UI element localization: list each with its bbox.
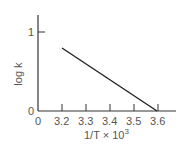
x-tick-label-3.5: 3.5 bbox=[126, 115, 141, 127]
y-axis-label: log k bbox=[12, 62, 24, 86]
x-tick-label-3.2: 3.2 bbox=[54, 115, 69, 127]
x-tick-label-3.4: 3.4 bbox=[102, 115, 117, 127]
x-tick-label-3.3: 3.3 bbox=[78, 115, 93, 127]
x-axis-label-main: 1/T × 10 bbox=[84, 129, 124, 141]
x-axis-label-superscript: 3 bbox=[124, 127, 129, 136]
chart: 1 0 0 3.2 3.3 3.4 3.5 3.6 log k 1/T × 10… bbox=[0, 0, 183, 146]
x-tick-label-3.6: 3.6 bbox=[150, 115, 165, 127]
x-axis-label: 1/T × 103 bbox=[84, 127, 129, 141]
x-tick-label-0: 0 bbox=[35, 115, 41, 127]
data-line bbox=[62, 48, 157, 111]
y-tick-label-0: 0 bbox=[28, 105, 34, 117]
y-tick-label-1: 1 bbox=[28, 26, 34, 38]
